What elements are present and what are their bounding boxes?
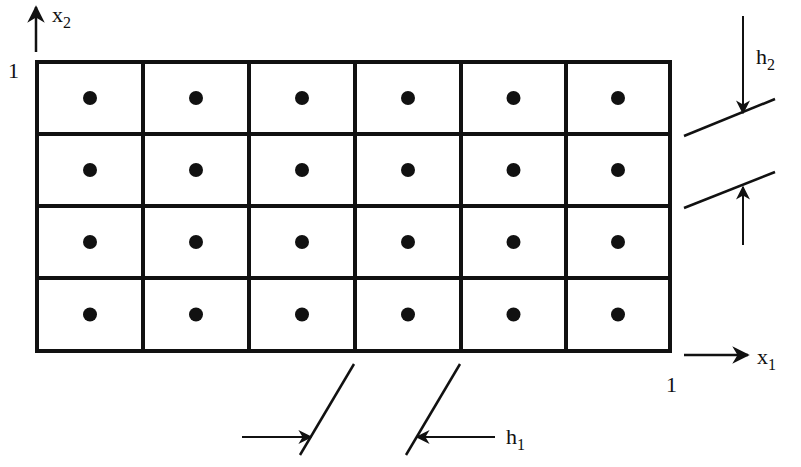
h2-extension-line (684, 99, 775, 136)
h1-extension-line (300, 364, 354, 455)
h1-extension-line (406, 364, 460, 455)
h1-label: h1 (506, 424, 525, 453)
cell-center-dot (611, 91, 625, 105)
h1-extension-lines (300, 364, 460, 455)
cell-center-dot (189, 308, 203, 322)
cell-center-dot (83, 308, 97, 322)
grid-lines (37, 62, 670, 351)
cell-center-dot (189, 235, 203, 249)
x2-axis: x2 1 (8, 2, 71, 83)
x2-tick-label: 1 (8, 58, 19, 83)
cell-center-dot (83, 235, 97, 249)
cell-center-dot (295, 308, 309, 322)
cell-center-dot (83, 163, 97, 177)
cell-center-dot (295, 163, 309, 177)
h2-label: h2 (756, 44, 775, 73)
cell-center-dot (189, 91, 203, 105)
x1-axis: x1 1 (666, 344, 776, 397)
cell-center-dot (295, 91, 309, 105)
cell-center-dot (507, 308, 521, 322)
x2-axis-label: x2 (52, 2, 71, 31)
h2-extension-line (684, 172, 775, 208)
cell-center-dot (295, 235, 309, 249)
cell-center-dot (83, 91, 97, 105)
cell-center-dot (611, 235, 625, 249)
cell-center-dot (507, 235, 521, 249)
cell-center-dot (611, 308, 625, 322)
cell-center-dot (507, 163, 521, 177)
h2-dimension: h2 (684, 16, 775, 245)
x1-axis-label: x1 (757, 344, 776, 373)
h1-dimension: h1 (242, 364, 525, 455)
cell-center-dot (507, 91, 521, 105)
cell-center-dot (401, 235, 415, 249)
cell-center-dot (401, 91, 415, 105)
cell-center-dot (401, 163, 415, 177)
cell-center-dot (401, 308, 415, 322)
cell-center-dot (611, 163, 625, 177)
finite-volume-grid-diagram: x2 1 x1 1 h1 h2 (0, 0, 801, 467)
cell-center-dot (189, 163, 203, 177)
x1-tick-label: 1 (666, 372, 677, 397)
h2-extension-lines (684, 99, 775, 208)
